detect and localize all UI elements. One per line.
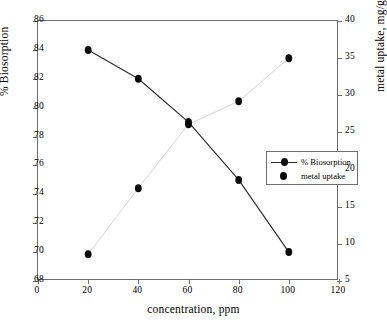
legend-item-biosorption: % Biosorption	[271, 155, 353, 169]
legend-marker-icon	[271, 170, 297, 182]
biosorption-points	[85, 46, 292, 256]
biosorption-line	[88, 50, 289, 252]
y-tick-label-left: 80	[14, 102, 44, 112]
y-tick-label-left: 70	[14, 246, 44, 256]
y-tick-label-right: 25	[345, 126, 375, 136]
x-tick-label: 0	[17, 286, 57, 296]
y-tick-label-left: 74	[14, 188, 44, 198]
legend-line-marker-icon	[271, 156, 297, 168]
y-tick-label-left: 82	[14, 73, 44, 83]
y-axis-left-title: % Biosorption	[0, 27, 10, 96]
y-tick-label-right: 20	[345, 164, 375, 174]
y-tick-label-right: 5	[345, 275, 375, 285]
y-tick-label-left: 86	[14, 15, 44, 25]
metal-uptake-point	[135, 184, 142, 192]
x-tick-label: 20	[67, 286, 107, 296]
x-tick-label: 80	[218, 286, 258, 296]
y-tick-label-left: 78	[14, 131, 44, 141]
y-tick-label-right: 40	[345, 15, 375, 25]
biosorption-point	[235, 176, 242, 184]
y-tick-label-left: 76	[14, 159, 44, 169]
biosorption-point	[135, 75, 142, 83]
x-axis-title: concentration, ppm	[0, 303, 387, 315]
y-axis-right-title: metal uptake, mg/g	[374, 0, 386, 92]
x-tick-label: 40	[117, 286, 157, 296]
y-tick-label-right: 15	[345, 201, 375, 211]
y-tick-label-left: 84	[14, 44, 44, 54]
biosorption-point	[285, 248, 292, 256]
y-tick-label-right: 30	[345, 89, 375, 99]
biosorption-point	[185, 118, 192, 126]
metal-uptake-trendline	[88, 58, 289, 254]
metal-uptake-point	[285, 54, 292, 62]
y-tick-label-right: 10	[345, 238, 375, 248]
x-tick-label: 120	[318, 286, 358, 296]
metal-uptake-points	[85, 54, 292, 258]
x-tick-label: 100	[268, 286, 308, 296]
metal-uptake-point	[85, 250, 92, 258]
legend-label-biosorption: % Biosorption	[297, 157, 351, 167]
metal-uptake-trend-polyline	[88, 58, 289, 254]
x-tick-label: 60	[168, 286, 208, 296]
chart-figure: % Biosorption metal uptake, mg/g concent…	[0, 0, 387, 328]
biosorption-polyline	[88, 50, 289, 252]
legend-item-metal-uptake: metal uptake	[271, 169, 353, 183]
y-tick-label-left: 68	[14, 275, 44, 285]
y-tick-label-left: 72	[14, 217, 44, 227]
x-tick	[339, 279, 340, 284]
y-tick-label-right: 35	[345, 52, 375, 62]
metal-uptake-point	[235, 97, 242, 105]
plot-area: % Biosorption metal uptake	[37, 20, 338, 280]
legend-label-metal-uptake: metal uptake	[297, 171, 345, 181]
biosorption-point	[85, 46, 92, 54]
